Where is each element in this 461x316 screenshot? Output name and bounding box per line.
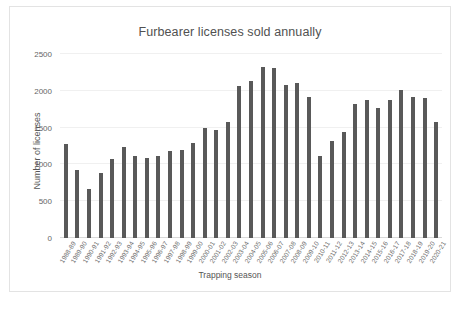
bar-slot: [106, 54, 118, 238]
bar-slot: [303, 54, 315, 238]
bar-slot: [129, 54, 141, 238]
bar-slot: [95, 54, 107, 238]
plot-area: [60, 54, 442, 238]
bar[interactable]: [423, 98, 427, 238]
bar-slot: [407, 54, 419, 238]
bar-slot: [257, 54, 269, 238]
chart-title: Furbearer licenses sold annually: [10, 25, 450, 39]
y-axis-tick-labels: 05001000150020002500: [10, 54, 56, 238]
bar[interactable]: [75, 170, 79, 238]
y-tick-label: 2000: [34, 86, 52, 95]
y-tick-label: 2500: [34, 50, 52, 59]
bar[interactable]: [365, 100, 369, 238]
bar[interactable]: [122, 147, 126, 238]
bar[interactable]: [191, 143, 195, 238]
bar-slot: [373, 54, 385, 238]
chart-frame: Furbearer licenses sold annually Number …: [9, 6, 451, 292]
y-tick-label: 1000: [34, 160, 52, 169]
bar-slot: [396, 54, 408, 238]
bar[interactable]: [307, 97, 311, 238]
bar[interactable]: [249, 81, 253, 239]
bar[interactable]: [99, 173, 103, 239]
y-tick-label: 1500: [34, 123, 52, 132]
bar[interactable]: [64, 144, 68, 238]
bar-slot: [234, 54, 246, 238]
y-tick-label: 500: [39, 197, 52, 206]
bar[interactable]: [214, 130, 218, 238]
bar[interactable]: [318, 156, 322, 238]
bar-slot: [118, 54, 130, 238]
bar[interactable]: [353, 104, 357, 238]
y-tick-label: 0: [48, 234, 52, 243]
bar-slot: [245, 54, 257, 238]
bar-slot: [326, 54, 338, 238]
bar-slot: [280, 54, 292, 238]
bar[interactable]: [168, 151, 172, 238]
bar-slot: [338, 54, 350, 238]
bar[interactable]: [145, 158, 149, 238]
bar[interactable]: [272, 68, 276, 238]
bar-slot: [210, 54, 222, 238]
bar-slot: [361, 54, 373, 238]
bar[interactable]: [180, 150, 184, 238]
bar[interactable]: [226, 122, 230, 238]
bar-slot: [349, 54, 361, 238]
bar-slot: [83, 54, 95, 238]
bar[interactable]: [388, 100, 392, 238]
bar[interactable]: [376, 108, 380, 238]
bar-slot: [60, 54, 72, 238]
bar-slot: [430, 54, 442, 238]
bar[interactable]: [237, 86, 241, 238]
bar-slot: [176, 54, 188, 238]
bar[interactable]: [295, 83, 299, 238]
bar[interactable]: [156, 156, 160, 238]
bar-slot: [164, 54, 176, 238]
bar[interactable]: [203, 128, 207, 238]
bar[interactable]: [434, 122, 438, 238]
bar[interactable]: [330, 141, 334, 238]
bar-slot: [187, 54, 199, 238]
bar-slot: [419, 54, 431, 238]
bar-slot: [222, 54, 234, 238]
bar[interactable]: [342, 132, 346, 238]
bar-series: [60, 54, 442, 238]
bar-slot: [315, 54, 327, 238]
x-axis-title: Trapping season: [10, 270, 450, 280]
bar[interactable]: [110, 159, 114, 238]
bar-slot: [153, 54, 165, 238]
bar[interactable]: [87, 189, 91, 238]
bar-slot: [268, 54, 280, 238]
bar-slot: [72, 54, 84, 238]
bar[interactable]: [411, 97, 415, 238]
bar[interactable]: [399, 90, 403, 238]
bar[interactable]: [284, 85, 288, 238]
bar-slot: [384, 54, 396, 238]
bar-slot: [199, 54, 211, 238]
bar[interactable]: [261, 67, 265, 238]
bar-slot: [292, 54, 304, 238]
bar[interactable]: [133, 156, 137, 238]
bar-slot: [141, 54, 153, 238]
